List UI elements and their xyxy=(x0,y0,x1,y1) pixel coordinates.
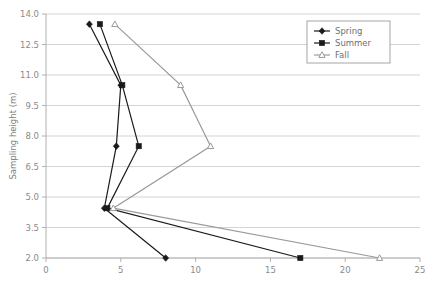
data-point-marker xyxy=(105,206,110,211)
x-axis-tick-labels: 0510152025 xyxy=(43,265,425,275)
x-tick-label: 20 xyxy=(340,265,351,275)
y-tick-label: 3.5 xyxy=(25,223,39,233)
legend-marker-icon xyxy=(319,40,324,45)
data-point-marker xyxy=(86,21,92,28)
y-tick-label: 2.0 xyxy=(25,253,39,263)
y-tick-label: 11.0 xyxy=(20,70,39,80)
y-axis-title: Sampling height (m) xyxy=(8,92,18,179)
x-tick-label: 0 xyxy=(43,265,48,275)
legend-label: Spring xyxy=(335,26,362,36)
data-point-marker xyxy=(298,255,303,260)
chart-container: 2.03.55.06.58.09.511.012.514.0 051015202… xyxy=(0,0,438,281)
data-point-marker xyxy=(113,143,119,150)
legend-label: Summer xyxy=(335,38,372,48)
line-chart: 2.03.55.06.58.09.511.012.514.0 051015202… xyxy=(0,0,438,281)
y-tick-label: 14.0 xyxy=(20,9,39,19)
chart-legend: SpringSummerFall xyxy=(307,21,390,63)
y-tick-label: 8.0 xyxy=(25,131,39,141)
y-tick-label: 6.5 xyxy=(25,162,39,172)
data-point-marker xyxy=(112,21,118,27)
y-axis-tick-labels: 2.03.55.06.58.09.511.012.514.0 xyxy=(20,9,39,263)
x-tick-label: 15 xyxy=(265,265,276,275)
series-spring xyxy=(86,21,168,261)
legend-label: Fall xyxy=(335,50,349,60)
y-tick-label: 9.5 xyxy=(25,101,39,111)
data-point-marker xyxy=(110,205,116,211)
data-point-marker xyxy=(97,22,102,27)
x-tick-label: 5 xyxy=(118,265,123,275)
x-tick-label: 10 xyxy=(190,265,201,275)
series-line xyxy=(89,24,165,258)
y-tick-label: 12.5 xyxy=(20,40,39,50)
data-point-marker xyxy=(136,144,141,149)
x-tick-label: 25 xyxy=(415,265,426,275)
data-point-marker xyxy=(120,83,125,88)
series-line xyxy=(100,24,300,258)
y-tick-label: 5.0 xyxy=(25,192,39,202)
data-point-marker xyxy=(207,143,213,149)
